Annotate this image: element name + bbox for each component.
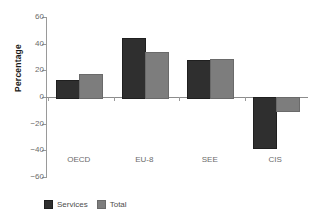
legend-item-total: Total bbox=[97, 200, 127, 209]
bar-oecd-services bbox=[56, 80, 80, 99]
x-axis-label-see: SEE bbox=[180, 155, 240, 164]
bar-see-total bbox=[210, 59, 234, 99]
chart-legend: Services Total bbox=[44, 200, 127, 209]
y-axis-tick-label: 60 bbox=[30, 12, 44, 22]
y-axis-title: Percentage bbox=[13, 28, 23, 108]
y-axis-tick-label: −60 bbox=[30, 172, 44, 182]
y-axis-tick-label: 20 bbox=[30, 65, 44, 75]
bar-see-services bbox=[187, 60, 211, 99]
legend-swatch-services bbox=[44, 200, 53, 209]
bar-chart: Percentage Services Total 6040200−20−40−… bbox=[0, 0, 324, 222]
x-axis-label-oecd: OECD bbox=[49, 155, 109, 164]
bar-eu-8-total bbox=[145, 52, 169, 99]
y-axis-tick-label: −20 bbox=[30, 119, 44, 129]
x-axis-tick bbox=[114, 97, 115, 101]
y-axis-tick-label: −40 bbox=[30, 145, 44, 155]
bar-cis-total bbox=[276, 97, 300, 112]
bar-eu-8-services bbox=[122, 38, 146, 99]
legend-item-services: Services bbox=[44, 200, 88, 209]
x-axis-tick bbox=[48, 97, 49, 101]
x-axis-tick bbox=[245, 97, 246, 101]
plot-area bbox=[46, 17, 308, 177]
x-axis-tick bbox=[179, 97, 180, 101]
x-axis-label-cis: CIS bbox=[245, 155, 305, 164]
x-axis-label-eu-8: EU-8 bbox=[114, 155, 174, 164]
y-axis-tick-label: 0 bbox=[30, 92, 44, 102]
legend-swatch-total bbox=[97, 200, 106, 209]
bar-cis-services bbox=[253, 97, 277, 149]
bar-oecd-total bbox=[79, 74, 103, 99]
legend-label-services: Services bbox=[57, 200, 88, 209]
y-axis-tick-label: 40 bbox=[30, 39, 44, 49]
legend-label-total: Total bbox=[110, 200, 127, 209]
